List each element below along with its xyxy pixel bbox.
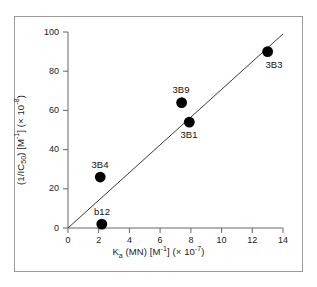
y-axis-ticks <box>63 32 68 228</box>
x-axis-mid: (MN) [M <box>123 246 161 257</box>
y-axis-end: ) <box>15 95 26 98</box>
y-axis-mid-superscript: -1 <box>13 133 20 139</box>
y-axis-head-subscript: 50 <box>20 156 27 164</box>
x-tick-label-2: 2 <box>87 235 111 245</box>
y-tick-label-100: 100 <box>35 27 59 37</box>
x-tick-label-10: 10 <box>210 235 234 245</box>
y-axis-mid: ) [M <box>15 139 26 156</box>
data-point-3B4[interactable] <box>95 172 106 183</box>
x-tick-label-0: 0 <box>56 235 80 245</box>
x-axis-end: ) <box>201 246 204 257</box>
point-label-3B4: 3B4 <box>80 159 120 170</box>
x-tick-label-14: 14 <box>271 235 295 245</box>
y-tick-label-40: 40 <box>35 144 59 154</box>
y-axis-tail: ] (× 10 <box>15 105 26 133</box>
y-tick-label-80: 80 <box>35 66 59 76</box>
x-tick-label-8: 8 <box>179 235 203 245</box>
y-tick-label-20: 20 <box>35 183 59 193</box>
x-axis-tail: ] (× 10 <box>167 246 195 257</box>
y-tick-label-0: 0 <box>35 223 59 233</box>
data-point-b12[interactable] <box>96 219 107 230</box>
point-label-3B3: 3B3 <box>254 59 294 70</box>
y-axis-title: (1/IC50) [M-1] (× 10-8) <box>15 0 26 284</box>
y-axis-head: (1/IC <box>15 164 26 185</box>
x-tick-label-12: 12 <box>240 235 264 245</box>
point-label-b12: b12 <box>82 206 122 217</box>
data-point-3B3[interactable] <box>262 46 273 57</box>
data-point-3B9[interactable] <box>176 97 187 108</box>
y-axis-tail-superscript: -8 <box>13 98 20 104</box>
point-label-3B9: 3B9 <box>161 84 201 95</box>
point-label-3B1: 3B1 <box>169 129 209 140</box>
x-tick-label-4: 4 <box>117 235 141 245</box>
x-axis-title: Ka (MN) [M-1] (× 10-7) <box>0 246 317 257</box>
y-axis-title-container: (1/IC50) [M-1] (× 10-8) <box>15 0 35 284</box>
data-point-3B1[interactable] <box>184 117 195 128</box>
y-tick-label-60: 60 <box>35 105 59 115</box>
x-tick-label-6: 6 <box>148 235 172 245</box>
